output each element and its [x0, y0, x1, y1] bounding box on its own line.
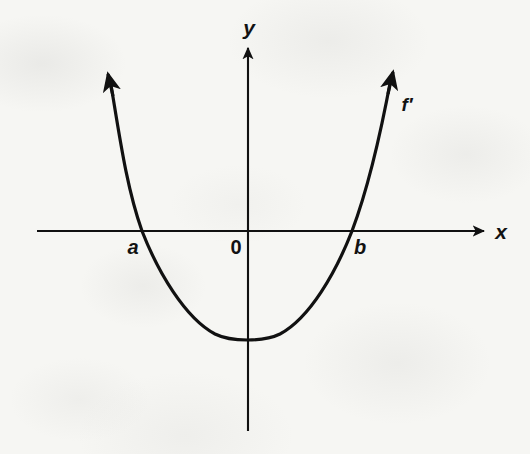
origin-label: 0 — [230, 237, 241, 257]
y-axis-label: y — [243, 17, 255, 38]
coordinate-plot — [0, 0, 530, 454]
derivative-curve — [110, 78, 391, 340]
x-axis-label: x — [495, 221, 507, 242]
root-a-label: a — [127, 237, 138, 257]
root-b-label: b — [354, 237, 366, 257]
figure-canvas: y x 0 a b f′ — [0, 0, 530, 454]
curve-name-label: f′ — [402, 95, 413, 114]
